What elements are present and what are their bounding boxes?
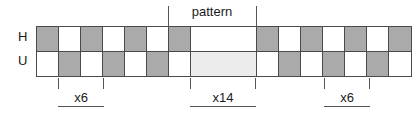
row-label-h: H: [14, 29, 32, 44]
grid-cell-u-4: [125, 52, 147, 76]
bracket-tick-left: [190, 78, 191, 89]
grid-cell-u-5: [147, 52, 169, 76]
grid-cell-h-4: [125, 27, 147, 51]
pattern-guide-line-right: [256, 6, 257, 28]
bracket-label: x14: [190, 90, 256, 106]
grid-cell-u-13: [367, 52, 389, 76]
bracket-label: x6: [324, 90, 370, 106]
grid-cell-h-3: [103, 27, 125, 51]
grid-cell-u-12: [345, 52, 367, 76]
grid-cell-h-9: [279, 27, 301, 51]
grid-cell-h-13: [367, 27, 389, 51]
bracket-left: x6: [58, 78, 104, 108]
grid-cell-u-2: [81, 52, 103, 76]
grid-cell-u-3: [103, 52, 125, 76]
bracket-label: x6: [58, 90, 104, 106]
grid-cell-h-5: [147, 27, 169, 51]
sequence-grid: [36, 26, 412, 77]
bracket-tick-right: [103, 78, 104, 89]
grid-cell-u-0: [37, 52, 59, 76]
pattern-annotation-label: pattern: [168, 4, 256, 19]
row-label-u: U: [14, 53, 32, 68]
grid-cell-h-7: [191, 27, 257, 51]
bracket-tick-right: [369, 78, 370, 89]
grid-cell-h-10: [301, 27, 323, 51]
grid-cell-u-7: [191, 52, 257, 76]
grid-cell-u-8: [257, 52, 279, 76]
grid-cell-h-8: [257, 27, 279, 51]
grid-cell-h-2: [81, 27, 103, 51]
bracket-tick-left: [324, 78, 325, 89]
grid-cell-h-6: [169, 27, 191, 51]
grid-cell-u-14: [389, 52, 411, 76]
grid-cell-u-1: [59, 52, 81, 76]
bracket-tick-left: [58, 78, 59, 89]
grid-cell-u-9: [279, 52, 301, 76]
grid-row-h: [37, 27, 411, 52]
grid-cell-u-6: [169, 52, 191, 76]
grid-cell-h-14: [389, 27, 411, 51]
bracket-center: x14: [190, 78, 256, 108]
grid-cell-h-11: [323, 27, 345, 51]
bracket-right: x6: [324, 78, 370, 108]
grid-cell-u-11: [323, 52, 345, 76]
bracket-tick-right: [255, 78, 256, 89]
grid-cell-h-0: [37, 27, 59, 51]
grid-cell-h-1: [59, 27, 81, 51]
grid-cell-u-10: [301, 52, 323, 76]
grid-row-u: [37, 52, 411, 76]
grid-cell-h-12: [345, 27, 367, 51]
